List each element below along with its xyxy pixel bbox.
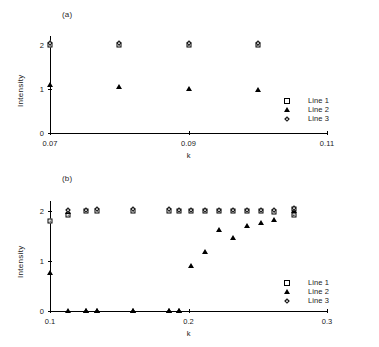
- triangle-marker: [216, 227, 222, 232]
- legend-a: Line 1 Line 2 Line 3: [280, 96, 329, 123]
- legend-label: Line 2: [308, 287, 329, 296]
- triangle-marker: [230, 235, 236, 240]
- y-tick-label: 2: [26, 207, 44, 216]
- legend-item: Line 1: [280, 278, 329, 287]
- triangle-marker: [255, 87, 261, 92]
- square-marker: [291, 213, 296, 218]
- triangle-marker: [83, 308, 89, 313]
- legend-label: Line 1: [308, 96, 329, 105]
- x-tick: [189, 131, 190, 135]
- panel-a: (a) k Intensity 0.070.090.11012 Line 1 L…: [0, 0, 379, 168]
- legend-item: Line 2: [280, 287, 329, 296]
- legend-item: Line 3: [280, 296, 329, 305]
- triangle-marker: [130, 308, 136, 313]
- y-tick-label: 0: [26, 129, 44, 138]
- x-tick: [327, 131, 328, 135]
- x-tick-label: 0.07: [43, 139, 58, 148]
- triangle-marker: [258, 220, 264, 225]
- legend-label: Line 3: [308, 114, 329, 123]
- triangle-marker: [94, 308, 100, 313]
- legend-label: Line 3: [308, 296, 329, 305]
- triangle-marker: [186, 86, 192, 91]
- x-tick-label: 0.3: [322, 317, 333, 326]
- y-tick-label: 0: [26, 307, 44, 316]
- triangle-marker: [244, 223, 250, 228]
- square-marker: [280, 278, 294, 287]
- triangle-marker: [280, 287, 294, 296]
- legend-item: Line 1: [280, 96, 329, 105]
- panel-b: (b) k Intensity 0.10.20.3012 Line 1 Line…: [0, 168, 379, 347]
- legend-label: Line 1: [308, 278, 329, 287]
- y-tick-label: 1: [26, 257, 44, 266]
- x-tick-label: 0.1: [45, 317, 56, 326]
- triangle-marker: [202, 249, 208, 254]
- x-tick: [189, 309, 190, 313]
- y-tick: [48, 261, 52, 262]
- legend-item: Line 3: [280, 114, 329, 123]
- legend-item: Line 2: [280, 105, 329, 114]
- triangle-marker: [47, 270, 53, 275]
- triangle-marker: [47, 82, 53, 87]
- triangle-marker: [116, 84, 122, 89]
- square-marker: [48, 219, 53, 224]
- triangle-marker: [166, 308, 172, 313]
- triangle-marker: [271, 217, 277, 222]
- scatter-plot-b: k Intensity 0.10.20.3012: [0, 168, 379, 347]
- triangle-marker: [176, 308, 182, 313]
- y-tick: [48, 133, 52, 134]
- x-tick: [327, 309, 328, 313]
- x-tick-label: 0.09: [181, 139, 196, 148]
- triangle-marker: [188, 263, 194, 268]
- scatter-plot-a: k Intensity 0.070.090.11012: [0, 0, 379, 168]
- x-tick-label: 0.2: [183, 317, 194, 326]
- y-tick: [48, 311, 52, 312]
- y-tick-label: 1: [26, 84, 44, 93]
- triangle-marker: [65, 308, 71, 313]
- square-marker: [280, 96, 294, 105]
- triangle-marker: [280, 105, 294, 114]
- x-axis-title-a: k: [187, 151, 191, 160]
- x-tick-label: 0.11: [320, 139, 334, 148]
- diamond-marker: [280, 114, 294, 123]
- x-axis-title-b: k: [187, 329, 191, 338]
- legend-b: Line 1 Line 2 Line 3: [280, 278, 329, 305]
- y-tick: [48, 89, 52, 90]
- diamond-marker: [280, 296, 294, 305]
- y-tick: [48, 211, 52, 212]
- y-tick-label: 2: [26, 40, 44, 49]
- y-axis-title-a: Intensity: [16, 74, 25, 107]
- y-axis-title-b: Intensity: [16, 246, 25, 279]
- legend-label: Line 2: [308, 105, 329, 114]
